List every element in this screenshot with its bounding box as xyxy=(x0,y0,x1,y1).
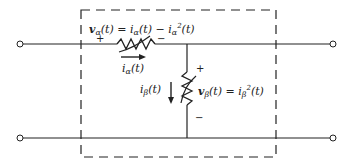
terminal-right-top xyxy=(330,41,336,47)
circuit-diagram: vα(t) = iα(t) − iα2(t) + − iα(t) + − vβ(… xyxy=(0,0,350,165)
series-resistor-alpha xyxy=(117,39,155,49)
alpha-voltage-equation: vα(t) = iα(t) − iα2(t) xyxy=(89,22,195,37)
alpha-minus-sign: − xyxy=(157,33,165,44)
terminal-left-top xyxy=(17,41,23,47)
beta-plus-sign: + xyxy=(196,63,204,74)
terminal-left-bottom xyxy=(17,135,23,141)
alpha-current-label: iα(t) xyxy=(122,62,144,76)
beta-voltage-equation: vβ(t) = iβ2(t) xyxy=(198,84,264,99)
beta-minus-sign: − xyxy=(195,112,203,123)
alpha-plus-sign: + xyxy=(96,33,104,44)
beta-current-label: iβ(t) xyxy=(140,83,161,97)
arrowhead-alpha xyxy=(139,54,146,60)
shunt-resistor-beta xyxy=(182,72,192,105)
arrowhead-beta xyxy=(168,97,174,104)
terminal-right-bottom xyxy=(330,135,336,141)
